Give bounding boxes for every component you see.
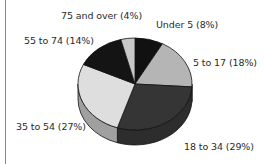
label-55-to-74: 55 to 74 (14%) [24,35,94,46]
label-5-to-17: 5 to 17 (18%) [193,57,257,68]
pie-top-face [78,38,192,130]
label-35-to-54: 35 to 54 (27%) [16,121,86,132]
pie-chart [0,0,265,164]
label-75-and-over: 75 and over (4%) [61,10,142,21]
label-under-5: Under 5 (8%) [156,19,218,30]
label-18-to-34: 18 to 34 (29%) [184,141,254,152]
